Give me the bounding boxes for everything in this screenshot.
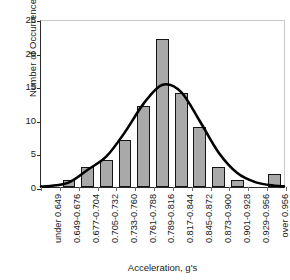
- x-axis-tick-label: 0.873-0.900: [219, 194, 228, 243]
- bar[interactable]: [193, 127, 206, 187]
- x-axis-tick-labels: under 0.6490.649-0.6760.677-0.7040.705-0…: [40, 194, 285, 256]
- bar-cell: [228, 21, 247, 187]
- x-axis-tick-marks: [41, 187, 284, 191]
- y-axis-tick-label: 25: [16, 15, 36, 25]
- x-axis-tick-mark: [286, 187, 287, 191]
- bar[interactable]: [175, 93, 188, 187]
- x-axis-tick-mark: [229, 187, 230, 191]
- x-axis-title: Acceleration, g's: [40, 262, 285, 273]
- x-axis-tick-label: under 0.649: [49, 194, 58, 243]
- x-axis-tick-label: 0.649-0.676: [68, 194, 77, 243]
- bar-cell: [153, 21, 172, 187]
- bar-series: [41, 21, 284, 187]
- x-axis-tick-mark: [116, 187, 117, 191]
- x-axis-tick-cell: 0.929-0.956: [247, 194, 266, 256]
- x-axis-tick-mark: [192, 187, 193, 191]
- x-axis-tick-mark: [173, 187, 174, 191]
- x-axis-tick-cell: 0.845-0.872: [191, 194, 210, 256]
- y-axis-tick-label: 10: [16, 116, 36, 126]
- bar[interactable]: [63, 180, 76, 187]
- x-axis-tick-cell: 0.705-0.732: [97, 194, 116, 256]
- x-axis-tick-label: 0.705-0.732: [106, 194, 115, 243]
- bar[interactable]: [231, 180, 244, 187]
- histogram-figure: Number of Occurrences 0510152025 under 0…: [0, 0, 290, 280]
- bar-cell: [97, 21, 116, 187]
- x-axis-tick-label: 0.929-0.956: [257, 194, 266, 243]
- x-axis-tick-mark: [154, 187, 155, 191]
- x-axis-tick-cell: over 0.956: [266, 194, 285, 256]
- x-axis-tick-label: 0.677-0.704: [87, 194, 96, 243]
- y-axis-tick-label: 5: [16, 150, 36, 160]
- x-axis-tick-mark: [60, 187, 61, 191]
- x-axis-tick-label-text: over 0.956: [280, 194, 289, 237]
- y-axis-tick-labels: 0510152025: [16, 0, 36, 280]
- bar[interactable]: [100, 160, 113, 187]
- x-axis-tick-cell: under 0.649: [40, 194, 59, 256]
- y-axis-tick-label: 20: [16, 49, 36, 59]
- x-axis-tick-cell: 0.761-0.788: [134, 194, 153, 256]
- x-axis-tick-label: 0.733-0.760: [125, 194, 134, 243]
- bar-cell: [265, 21, 284, 187]
- x-axis-tick-mark: [267, 187, 268, 191]
- bar-cell: [247, 21, 266, 187]
- x-axis-tick-mark: [248, 187, 249, 191]
- x-axis-tick-label: 0.845-0.872: [200, 194, 209, 243]
- y-axis-tick-label: 15: [16, 82, 36, 92]
- bar-cell: [41, 21, 60, 187]
- bar[interactable]: [156, 39, 169, 187]
- x-axis-tick-mark: [98, 187, 99, 191]
- x-axis-tick-mark: [135, 187, 136, 191]
- bar-cell: [78, 21, 97, 187]
- x-axis-tick-mark: [211, 187, 212, 191]
- y-axis-tick-mark: [37, 189, 41, 190]
- x-axis-tick-cell: 0.649-0.676: [59, 194, 78, 256]
- x-axis-tick-cell: 0.873-0.900: [210, 194, 229, 256]
- bar[interactable]: [212, 167, 225, 187]
- x-axis-tick-mark: [79, 187, 80, 191]
- bar[interactable]: [81, 167, 94, 187]
- x-axis-tick-mark: [41, 187, 42, 191]
- x-axis-tick-cell: 0.901-0.928: [228, 194, 247, 256]
- x-axis-tick-cell: 0.677-0.704: [78, 194, 97, 256]
- bar-cell: [60, 21, 79, 187]
- x-axis-tick-label: over 0.956: [276, 194, 285, 237]
- x-axis-tick-label: 0.901-0.928: [238, 194, 247, 243]
- plot-area: [40, 20, 285, 188]
- bar-cell: [116, 21, 135, 187]
- x-axis-tick-cell: 0.817-0.844: [172, 194, 191, 256]
- x-axis-tick-cell: 0.789-0.816: [153, 194, 172, 256]
- bar[interactable]: [119, 140, 132, 187]
- x-axis-tick-label: 0.817-0.844: [181, 194, 190, 243]
- bar-cell: [209, 21, 228, 187]
- bar-cell: [172, 21, 191, 187]
- y-axis-tick-label: 0: [16, 183, 36, 193]
- bar-cell: [134, 21, 153, 187]
- bar[interactable]: [137, 106, 150, 187]
- x-axis-tick-label: 0.761-0.788: [144, 194, 153, 243]
- bar-cell: [191, 21, 210, 187]
- bar[interactable]: [268, 174, 281, 187]
- x-axis-tick-label: 0.789-0.816: [162, 194, 171, 243]
- x-axis-tick-cell: 0.733-0.760: [115, 194, 134, 256]
